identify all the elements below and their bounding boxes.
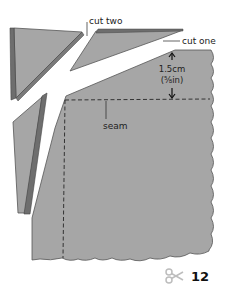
label-measure-imperial: (⅝in) xyxy=(161,75,184,85)
label-measure-metric: 1.5cm xyxy=(159,64,185,74)
label-cut-two: cut two xyxy=(89,16,123,26)
seam-trimming-diagram: cut two cut one 1.5cm (⅝in) seam 12 xyxy=(0,0,230,297)
page-number: 12 xyxy=(191,269,209,284)
scissors-icon xyxy=(166,269,183,283)
trimmed-corner-piece-left xyxy=(10,28,84,101)
fabric-main-panel xyxy=(32,50,214,261)
label-cut-one: cut one xyxy=(182,36,216,46)
label-seam: seam xyxy=(103,121,128,131)
